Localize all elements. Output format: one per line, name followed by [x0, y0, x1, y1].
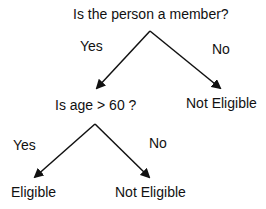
not-eligible-leaf-1: Not Eligible [186, 95, 257, 111]
arrow-root-yes [97, 31, 150, 88]
eligible-leaf: Eligible [11, 184, 56, 200]
edge-label-root-no: No [212, 41, 230, 57]
edge-label-age-no: No [149, 135, 167, 151]
age-question: Is age > 60 ? [55, 97, 136, 113]
arrow-root-no [150, 31, 220, 88]
not-eligible-leaf-2: Not Eligible [115, 184, 186, 200]
edge-label-age-yes: Yes [13, 137, 36, 153]
edge-label-root-yes: Yes [80, 38, 103, 54]
arrow-age-no [95, 124, 149, 177]
root-question: Is the person a member? [73, 6, 229, 22]
arrow-age-yes [35, 124, 95, 177]
